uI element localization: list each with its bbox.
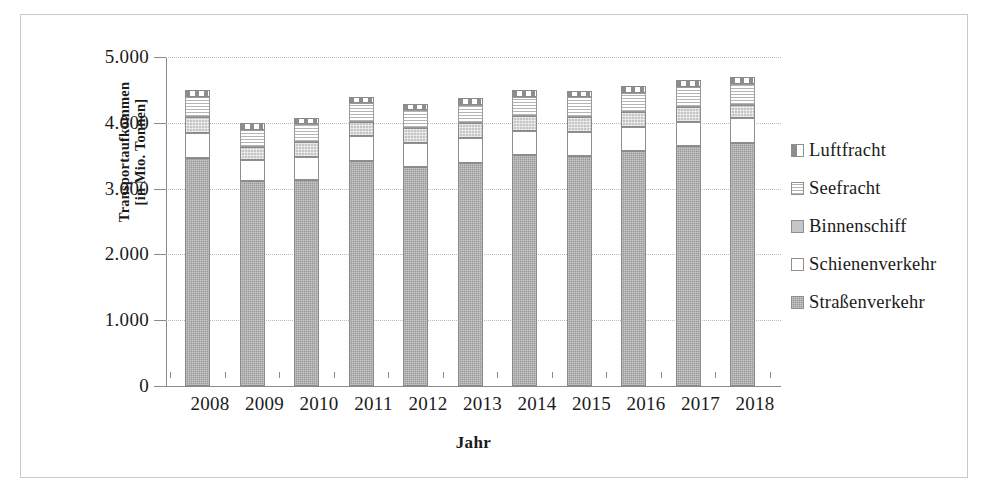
stacked-bar[interactable] — [676, 57, 701, 386]
gridline — [166, 386, 781, 387]
x-axis-tick-label: 2016 — [616, 393, 676, 415]
segment-sea-freight[interactable] — [294, 124, 319, 142]
x-axis-tick-label: 2015 — [562, 393, 622, 415]
segment-air-freight[interactable] — [512, 90, 537, 97]
segment-rail-transport[interactable] — [349, 136, 374, 161]
segment-inland-vessel[interactable] — [403, 128, 428, 143]
segment-air-freight[interactable] — [676, 80, 701, 87]
x-axis-tick — [388, 372, 389, 378]
legend-item[interactable]: Seefracht — [791, 169, 966, 207]
segment-inland-vessel[interactable] — [185, 117, 210, 133]
stacked-bar[interactable] — [567, 57, 592, 386]
x-axis-tick-label: 2011 — [344, 393, 404, 415]
y-axis-tick — [154, 386, 166, 387]
segment-air-freight[interactable] — [458, 98, 483, 104]
stacked-bar[interactable] — [240, 57, 265, 386]
segment-road-transport[interactable] — [240, 181, 265, 386]
chart-figure: Transportaufkommen [in Mio. Tonnen] 01.0… — [20, 14, 968, 478]
segment-road-transport[interactable] — [676, 146, 701, 386]
segment-air-freight[interactable] — [185, 90, 210, 98]
segment-road-transport[interactable] — [730, 143, 755, 386]
segment-road-transport[interactable] — [403, 167, 428, 386]
segment-inland-vessel[interactable] — [294, 142, 319, 157]
segment-air-freight[interactable] — [621, 86, 646, 93]
segment-rail-transport[interactable] — [621, 127, 646, 151]
segment-sea-freight[interactable] — [512, 97, 537, 116]
segment-sea-freight[interactable] — [185, 97, 210, 117]
stacked-bar[interactable] — [185, 57, 210, 386]
air-freight-swatch — [791, 144, 804, 157]
y-axis-title: Transportaufkommen [in Mio. Tonnen] — [116, 32, 150, 272]
segment-sea-freight[interactable] — [621, 93, 646, 113]
segment-rail-transport[interactable] — [567, 132, 592, 156]
sea-freight-swatch — [791, 182, 804, 195]
segment-inland-vessel[interactable] — [730, 105, 755, 118]
segment-rail-transport[interactable] — [676, 122, 701, 146]
x-axis-tick — [552, 372, 553, 378]
segment-road-transport[interactable] — [294, 180, 319, 386]
plot-area: 01.0002.0003.0004.0005.000 2008200920102… — [166, 43, 781, 386]
chart-legend: LuftfrachtSeefrachtBinnenschiffSchienenv… — [791, 131, 966, 321]
x-axis-tick-label: 2008 — [180, 393, 240, 415]
x-axis-tick-label: 2013 — [453, 393, 513, 415]
stacked-bar[interactable] — [403, 57, 428, 386]
segment-sea-freight[interactable] — [676, 87, 701, 107]
segment-road-transport[interactable] — [621, 151, 646, 386]
segment-sea-freight[interactable] — [240, 130, 265, 147]
segment-inland-vessel[interactable] — [458, 123, 483, 138]
x-axis-tick — [606, 372, 607, 378]
segment-inland-vessel[interactable] — [240, 147, 265, 160]
stacked-bar[interactable] — [621, 57, 646, 386]
segment-rail-transport[interactable] — [185, 133, 210, 157]
segment-air-freight[interactable] — [567, 91, 592, 97]
segment-inland-vessel[interactable] — [621, 112, 646, 127]
legend-item[interactable]: Luftfracht — [791, 131, 966, 169]
segment-road-transport[interactable] — [349, 161, 374, 386]
y-axis-tick-label: 2.000 — [105, 243, 149, 265]
segment-rail-transport[interactable] — [240, 160, 265, 180]
stacked-bar[interactable] — [730, 57, 755, 386]
segment-road-transport[interactable] — [567, 156, 592, 386]
legend-item[interactable]: Schienenverkehr — [791, 245, 966, 283]
y-axis-tick-label: 4.000 — [105, 112, 149, 134]
segment-sea-freight[interactable] — [730, 84, 755, 105]
segment-rail-transport[interactable] — [458, 138, 483, 163]
legend-item[interactable]: Straßenverkehr — [791, 283, 966, 321]
x-axis-tick-label: 2017 — [671, 393, 731, 415]
segment-sea-freight[interactable] — [567, 97, 592, 117]
segment-sea-freight[interactable] — [458, 105, 483, 123]
y-axis-tick-label: 5.000 — [105, 46, 149, 68]
y-axis-tick-label: 3.000 — [105, 178, 149, 200]
segment-inland-vessel[interactable] — [512, 116, 537, 131]
segment-inland-vessel[interactable] — [567, 117, 592, 132]
segment-rail-transport[interactable] — [294, 157, 319, 180]
segment-sea-freight[interactable] — [403, 110, 428, 128]
inland-vessel-swatch — [791, 220, 804, 233]
y-axis-line — [166, 57, 167, 386]
segment-rail-transport[interactable] — [730, 118, 755, 143]
stacked-bar[interactable] — [512, 57, 537, 386]
segment-air-freight[interactable] — [240, 123, 265, 130]
segment-air-freight[interactable] — [403, 104, 428, 110]
segment-road-transport[interactable] — [512, 155, 537, 386]
segment-air-freight[interactable] — [730, 77, 755, 84]
y-axis-tick — [154, 189, 166, 190]
x-axis-tick-label: 2012 — [398, 393, 458, 415]
segment-rail-transport[interactable] — [403, 143, 428, 167]
segment-sea-freight[interactable] — [349, 103, 374, 122]
x-axis-tick — [279, 372, 280, 378]
stacked-bar[interactable] — [458, 57, 483, 386]
legend-item[interactable]: Binnenschiff — [791, 207, 966, 245]
x-axis-tick-label: 2009 — [235, 393, 295, 415]
x-axis-tick — [497, 372, 498, 378]
segment-air-freight[interactable] — [349, 97, 374, 103]
segment-road-transport[interactable] — [185, 158, 210, 386]
x-axis-tick — [443, 372, 444, 378]
segment-air-freight[interactable] — [294, 118, 319, 124]
segment-rail-transport[interactable] — [512, 131, 537, 155]
stacked-bar[interactable] — [294, 57, 319, 386]
segment-road-transport[interactable] — [458, 163, 483, 386]
segment-inland-vessel[interactable] — [676, 107, 701, 122]
segment-inland-vessel[interactable] — [349, 122, 374, 137]
stacked-bar[interactable] — [349, 57, 374, 386]
